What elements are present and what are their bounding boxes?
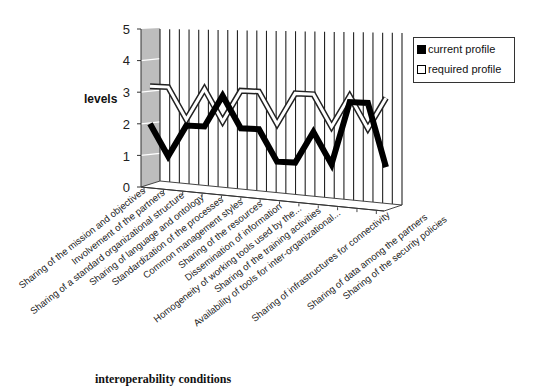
current-profile-swatch-icon — [417, 45, 426, 54]
x-category-label: Sharing of a standard organizational str… — [28, 189, 186, 316]
chart-legend: current profile required profile — [413, 37, 515, 83]
legend-item-current: current profile — [417, 40, 514, 58]
y-tick-1: 1 — [116, 149, 130, 164]
x-axis-title: interoperability conditions — [95, 372, 231, 387]
y-tick-5: 5 — [116, 22, 130, 37]
x-category-label: Sharing of the security policies — [340, 213, 448, 301]
legend-label-required: required profile — [428, 63, 501, 75]
required-profile-swatch-icon — [417, 65, 426, 74]
y-tick-3: 3 — [116, 85, 130, 100]
legend-label-current: current profile — [428, 43, 495, 55]
back-wall — [141, 28, 160, 187]
y-tick-2: 2 — [116, 117, 130, 132]
y-tick-4: 4 — [116, 53, 130, 68]
legend-item-required: required profile — [417, 60, 514, 78]
y-axis-title: levels — [84, 92, 117, 106]
y-tick-0: 0 — [116, 180, 130, 195]
